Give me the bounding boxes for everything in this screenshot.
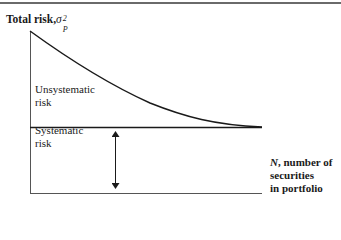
unsystematic-risk-label: Unsystematic risk [35,83,95,109]
systematic-risk-label: Systematic risk [35,124,83,150]
total-risk-curve [30,31,262,127]
x-axis-label: N, number of securities in portfolio [270,156,332,195]
